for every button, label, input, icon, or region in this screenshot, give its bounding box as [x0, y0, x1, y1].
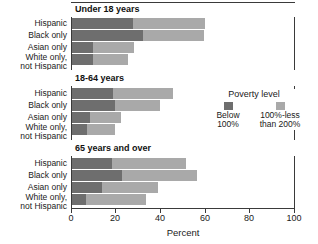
legend-label-below-100-line2: 100%	[217, 119, 239, 129]
bar-segment-below-100	[72, 18, 133, 29]
panel-0-header-band	[0, 3, 318, 17]
bar-segment-100-to-200	[115, 100, 160, 111]
legend-label-100-to-200: 100%-less than 200%	[254, 111, 306, 130]
poverty-level-bar-chart: Under 18 years Hispanic Black only Asian…	[0, 0, 318, 244]
panel-title-65-and-over: 65 years and over	[72, 142, 154, 155]
category-label-black-p2: Black only	[1, 171, 67, 180]
bar-segment-100-to-200	[93, 54, 128, 65]
panel-title-under-18: Under 18 years	[72, 3, 143, 16]
x-tick-label-20: 20	[102, 213, 128, 224]
x-axis-title: Percent	[71, 227, 295, 238]
x-tick-label-60: 60	[192, 213, 218, 224]
bar-segment-below-100	[72, 100, 115, 111]
bar-segment-100-to-200	[102, 182, 158, 193]
bar-segment-below-100	[72, 158, 112, 169]
bar-segment-below-100	[72, 194, 86, 205]
legend-swatch-100-to-200-icon	[276, 102, 285, 110]
legend-item-100-to-200[interactable]: 100%-less than 200%	[254, 102, 306, 130]
category-label-asian-p2: Asian only	[1, 183, 67, 192]
bar-segment-100-to-200	[86, 194, 146, 205]
bar-segment-100-to-200	[133, 18, 205, 29]
legend-swatch-below-100-icon	[224, 102, 233, 110]
panel-2-header-band	[0, 140, 318, 156]
bar-segment-100-to-200	[112, 158, 186, 169]
bar-segment-100-to-200	[113, 88, 173, 99]
category-label-asian-p0: Asian only	[1, 43, 67, 52]
legend-title: Poverty level	[196, 89, 312, 100]
category-label-asian-p1: Asian only	[1, 113, 67, 122]
legend-items: Below 100% 100%-less than 200%	[196, 102, 312, 130]
bar-segment-below-100	[72, 30, 143, 41]
bar-segment-below-100	[72, 170, 122, 181]
x-tick-label-40: 40	[147, 213, 173, 224]
bar-segment-100-to-200	[87, 124, 115, 135]
legend-label-below-100: Below 100%	[202, 111, 254, 130]
bar-segment-below-100	[72, 42, 93, 53]
category-label-hispanic-p0: Hispanic	[1, 19, 67, 28]
legend: Poverty level Below 100% 100%-less than …	[196, 89, 312, 130]
bar-segment-below-100	[72, 124, 87, 135]
panel-title-18-64: 18-64 years	[72, 72, 127, 85]
bar-segment-100-to-200	[143, 30, 204, 41]
category-label-hispanic-p2: Hispanic	[1, 159, 67, 168]
category-label-white-p2: White only, not Hispanic	[1, 193, 67, 210]
bar-segment-below-100	[72, 54, 93, 65]
bar-segment-100-to-200	[93, 42, 134, 53]
category-label-black-p0: Black only	[1, 31, 67, 40]
bar-segment-100-to-200	[90, 112, 121, 123]
category-label-black-p1: Black only	[1, 101, 67, 110]
category-label-white-p0: White only, not Hispanic	[1, 53, 67, 70]
bar-segment-below-100	[72, 88, 113, 99]
bar-segment-100-to-200	[122, 170, 197, 181]
legend-label-100-to-200-line2: than 200%	[260, 119, 301, 129]
category-label-hispanic-p1: Hispanic	[1, 89, 67, 98]
panel-1-header-band	[0, 70, 318, 86]
bar-segment-below-100	[72, 182, 102, 193]
x-tick-label-100: 100	[281, 213, 307, 224]
x-tick-label-0: 0	[58, 213, 84, 224]
category-label-white-line2: not Hispanic	[20, 201, 67, 211]
category-label-white-p1: White only, not Hispanic	[1, 123, 67, 140]
bar-segment-below-100	[72, 112, 90, 123]
legend-item-below-100[interactable]: Below 100%	[202, 102, 254, 130]
x-tick-label-80: 80	[236, 213, 262, 224]
